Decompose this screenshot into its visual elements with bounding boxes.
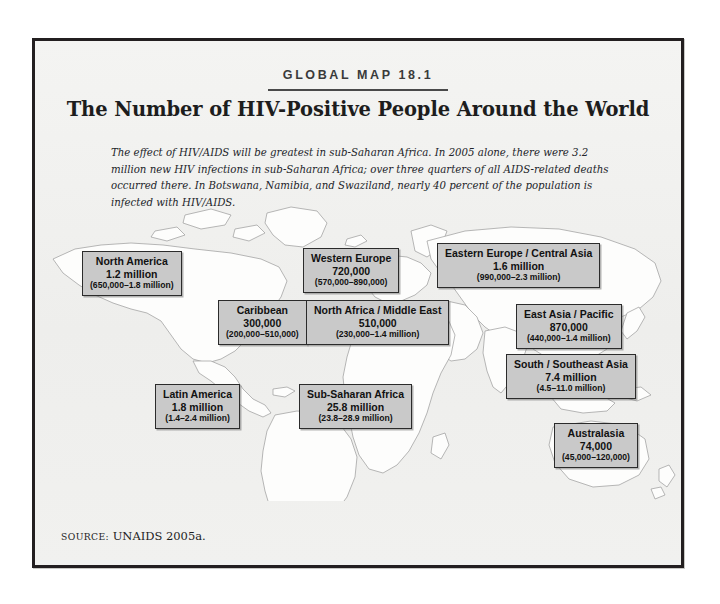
region-box-north-africa-middle-east[interactable]: North Africa / Middle East 510,000 (230,… xyxy=(306,300,449,345)
region-name: Latin America xyxy=(163,388,232,401)
region-range: (1.4–2.4 million) xyxy=(163,413,232,424)
region-value: 720,000 xyxy=(311,265,391,278)
page-title: The Number of HIV-Positive People Around… xyxy=(35,98,681,121)
region-value: 870,000 xyxy=(524,321,614,334)
region-range: (990,000–2.3 million) xyxy=(445,272,592,283)
region-name: Caribbean xyxy=(226,304,299,317)
region-range: (650,000–1.8 million) xyxy=(90,280,174,291)
figure-paper: GLOBAL MAP 18.1 The Number of HIV-Positi… xyxy=(35,41,681,565)
region-box-eastern-europe-central-asia[interactable]: Eastern Europe / Central Asia 1.6 millio… xyxy=(437,243,600,288)
region-value: 25.8 million xyxy=(307,401,404,414)
region-value: 510,000 xyxy=(314,317,441,330)
region-box-latin-america[interactable]: Latin America 1.8 million (1.4–2.4 milli… xyxy=(155,384,240,429)
region-name: Australasia xyxy=(562,427,630,440)
region-name: Sub-Saharan Africa xyxy=(307,388,404,401)
region-value: 1.2 million xyxy=(90,268,174,281)
region-value: 1.6 million xyxy=(445,260,592,273)
region-range: (4.5–11.0 million) xyxy=(514,383,628,394)
world-map-area: North America 1.2 million (650,000–1.8 m… xyxy=(35,201,681,501)
region-range: (230,000–1.4 million) xyxy=(314,329,441,340)
region-box-caribbean[interactable]: Caribbean 300,000 (200,000–510,000) xyxy=(218,300,307,345)
source-line: SOURCE: UNAIDS 2005a. xyxy=(61,529,206,543)
region-box-south-southeast-asia[interactable]: South / Southeast Asia 7.4 million (4.5–… xyxy=(506,354,636,399)
region-value: 7.4 million xyxy=(514,371,628,384)
kicker-underline xyxy=(268,89,448,91)
figure-kicker-wrap: GLOBAL MAP 18.1 xyxy=(35,65,681,91)
region-box-australasia[interactable]: Australasia 74,000 (45,000–120,000) xyxy=(554,423,638,468)
region-range: (440,000–1.4 million) xyxy=(524,333,614,344)
figure-frame: GLOBAL MAP 18.1 The Number of HIV-Positi… xyxy=(32,38,684,568)
region-box-sub-saharan-africa[interactable]: Sub-Saharan Africa 25.8 million (23.8–28… xyxy=(299,384,412,429)
region-range: (570,000–890,000) xyxy=(311,277,391,288)
region-value: 1.8 million xyxy=(163,401,232,414)
figure-kicker: GLOBAL MAP 18.1 xyxy=(283,68,433,89)
region-range: (200,000–510,000) xyxy=(226,329,299,340)
region-name: Eastern Europe / Central Asia xyxy=(445,247,592,260)
region-name: East Asia / Pacific xyxy=(524,308,614,321)
region-range: (23.8–28.9 million) xyxy=(307,413,404,424)
region-name: North America xyxy=(90,255,174,268)
region-box-western-europe[interactable]: Western Europe 720,000 (570,000–890,000) xyxy=(303,248,399,293)
region-name: Western Europe xyxy=(311,252,391,265)
source-label: SOURCE: xyxy=(61,531,109,542)
source-text: UNAIDS 2005a. xyxy=(113,529,206,543)
region-value: 300,000 xyxy=(226,317,299,330)
region-range: (45,000–120,000) xyxy=(562,452,630,463)
region-box-east-asia-pacific[interactable]: East Asia / Pacific 870,000 (440,000–1.4… xyxy=(516,304,622,349)
region-value: 74,000 xyxy=(562,440,630,453)
region-box-north-america[interactable]: North America 1.2 million (650,000–1.8 m… xyxy=(82,251,182,296)
region-name: North Africa / Middle East xyxy=(314,304,441,317)
region-name: South / Southeast Asia xyxy=(514,358,628,371)
